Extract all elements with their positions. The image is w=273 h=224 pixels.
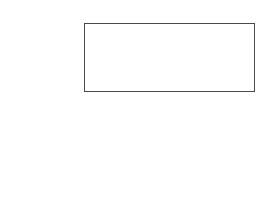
figure-panel-d bbox=[0, 0, 273, 224]
bar-series-layers bbox=[84, 106, 255, 148]
chart-no-communities bbox=[84, 23, 255, 92]
chart-no-layers bbox=[84, 106, 255, 148]
x-axis-category-labels bbox=[84, 151, 255, 223]
bar-series-communities bbox=[85, 24, 254, 91]
